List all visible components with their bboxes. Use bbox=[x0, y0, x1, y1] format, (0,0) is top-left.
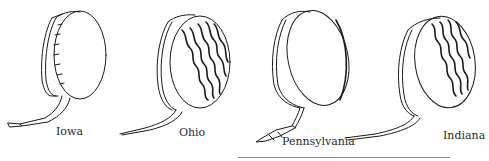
bonnet-iowa bbox=[8, 11, 106, 127]
label-indiana: Indiana bbox=[443, 129, 485, 142]
bonnet-pennsylvania bbox=[256, 5, 357, 142]
label-iowa: Iowa bbox=[56, 125, 83, 138]
divider-rule bbox=[238, 157, 450, 158]
bonnet-ohio bbox=[120, 15, 230, 135]
bonnet-indiana bbox=[345, 12, 481, 140]
label-ohio: Ohio bbox=[179, 126, 205, 139]
label-pennsylvania: Pennsylvania bbox=[282, 135, 355, 148]
